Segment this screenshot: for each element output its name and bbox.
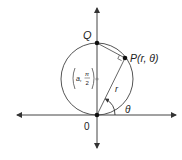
diagram-canvas: Q P(r, θ) r θ 0 a, π 2: [0, 0, 182, 160]
point-q: [95, 41, 100, 46]
label-center-2: 2: [86, 80, 90, 86]
polar-circle-diagram: Q P(r, θ) r θ 0 a, π 2: [0, 0, 182, 160]
origin-point: [95, 113, 100, 118]
label-center-pi: π: [85, 71, 90, 77]
label-q: Q: [83, 29, 92, 41]
center-point: [96, 78, 99, 81]
point-p: [123, 56, 128, 61]
label-center-a: a,: [76, 75, 82, 82]
label-p: P(r, θ): [130, 52, 158, 64]
label-theta: θ: [125, 104, 131, 115]
label-origin: 0: [84, 121, 90, 132]
chord-q-p: [97, 43, 125, 58]
center-label: a, π 2: [73, 68, 94, 89]
label-r: r: [115, 84, 119, 94]
